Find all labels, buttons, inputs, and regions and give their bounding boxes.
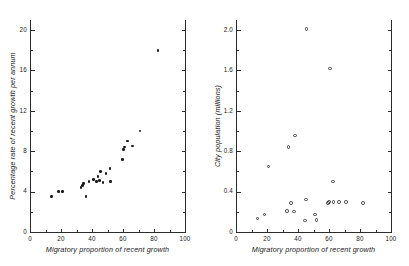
x-tick-minor xyxy=(345,230,346,232)
y-tick-major-right xyxy=(182,232,186,233)
data-point xyxy=(121,158,124,161)
x-tick-minor xyxy=(170,230,171,232)
data-point xyxy=(337,200,341,204)
y-tick-major-right xyxy=(182,30,186,31)
data-point xyxy=(57,190,60,193)
x-tick-minor xyxy=(139,230,140,232)
data-point xyxy=(263,213,267,217)
data-point xyxy=(293,134,297,138)
x-tick-major xyxy=(236,229,237,233)
data-point xyxy=(327,200,331,204)
x-tick-label: 60 xyxy=(317,236,341,242)
x-tick-major xyxy=(30,229,31,233)
chart-panel-left: 048121620020406080100Migratory proportio… xyxy=(0,0,204,266)
y-tick-major xyxy=(31,192,35,193)
y-tick-minor-right xyxy=(389,131,391,132)
x-tick-minor xyxy=(77,230,78,232)
y-tick-major xyxy=(31,111,35,112)
x-tick-minor xyxy=(283,230,284,232)
x-tick-major xyxy=(61,229,62,233)
chart-panel-right: 00.40.81.21.62.0020406080100Migratory pr… xyxy=(205,0,409,266)
y-axis-line-left xyxy=(236,20,237,232)
data-point xyxy=(332,200,336,204)
data-point xyxy=(126,140,129,143)
y-tick-minor xyxy=(31,50,33,51)
y-tick-minor xyxy=(31,212,33,213)
y-tick-major xyxy=(237,111,241,112)
x-tick-label: 20 xyxy=(255,236,279,242)
y-tick-minor xyxy=(237,131,239,132)
data-point xyxy=(105,172,108,175)
x-tick-major xyxy=(154,229,155,233)
data-point xyxy=(88,180,91,183)
y-tick-major xyxy=(237,70,241,71)
x-axis-title: Migratory proportion of recent growth xyxy=(236,246,391,253)
x-tick-major xyxy=(185,229,186,233)
data-point xyxy=(304,198,308,202)
x-axis-line xyxy=(30,232,186,233)
y-tick-major-right xyxy=(388,232,392,233)
x-tick-label: 0 xyxy=(224,236,248,242)
y-tick-major xyxy=(237,30,241,31)
y-tick-major-right xyxy=(388,192,392,193)
x-tick-label: 0 xyxy=(18,236,42,242)
y-tick-minor xyxy=(31,91,33,92)
data-point xyxy=(313,213,317,217)
y-tick-major xyxy=(237,151,241,152)
data-point xyxy=(50,195,53,198)
y-tick-major xyxy=(31,70,35,71)
x-tick-major xyxy=(329,229,330,233)
y-tick-major-right xyxy=(388,151,392,152)
x-tick-label: 80 xyxy=(348,236,372,242)
y-tick-minor-right xyxy=(183,131,185,132)
x-tick-major xyxy=(391,229,392,233)
y-tick-major-right xyxy=(182,111,186,112)
data-point xyxy=(267,165,271,169)
x-tick-label: 80 xyxy=(142,236,166,242)
data-point xyxy=(328,67,332,71)
data-point xyxy=(139,130,142,133)
data-point xyxy=(98,179,101,182)
y-axis-line-right xyxy=(391,20,392,232)
y-axis-line-right xyxy=(185,20,186,232)
data-point xyxy=(109,167,112,170)
y-axis-title: Percentage rate of recent growth per ann… xyxy=(9,20,16,232)
y-tick-minor-right xyxy=(389,91,391,92)
data-point xyxy=(122,148,125,151)
y-tick-minor xyxy=(237,50,239,51)
y-tick-major-right xyxy=(388,30,392,31)
y-tick-major-right xyxy=(388,70,392,71)
plot-area-left: 048121620020406080100Migratory proportio… xyxy=(0,0,204,266)
y-axis-line-left xyxy=(30,20,31,232)
x-axis-title: Migratory proportion of recent growth xyxy=(30,246,185,253)
x-tick-label: 40 xyxy=(286,236,310,242)
data-point xyxy=(287,145,291,149)
x-tick-label: 100 xyxy=(379,236,403,242)
x-axis-line xyxy=(236,232,392,233)
y-tick-minor-right xyxy=(389,212,391,213)
y-tick-major xyxy=(31,232,35,233)
x-tick-major xyxy=(92,229,93,233)
x-tick-major xyxy=(267,229,268,233)
x-tick-label: 40 xyxy=(80,236,104,242)
data-point xyxy=(102,181,105,184)
data-point xyxy=(331,180,335,184)
y-tick-major-right xyxy=(388,111,392,112)
x-tick-minor xyxy=(376,230,377,232)
y-tick-minor xyxy=(31,131,33,132)
y-tick-minor-right xyxy=(389,171,391,172)
data-point xyxy=(292,210,296,214)
y-tick-major-right xyxy=(182,151,186,152)
x-tick-label: 100 xyxy=(173,236,197,242)
data-point xyxy=(109,180,112,183)
data-point xyxy=(61,190,64,193)
y-tick-minor xyxy=(31,171,33,172)
x-tick-label: 20 xyxy=(49,236,73,242)
x-tick-minor xyxy=(46,230,47,232)
y-tick-minor xyxy=(237,171,239,172)
y-tick-major xyxy=(31,151,35,152)
x-tick-major xyxy=(298,229,299,233)
y-tick-minor xyxy=(237,91,239,92)
data-point xyxy=(285,209,289,213)
data-point xyxy=(289,201,293,205)
